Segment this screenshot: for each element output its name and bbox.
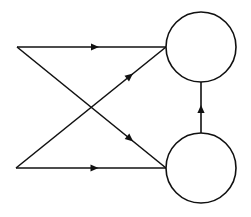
edge-bottom-node-to-top-node [197, 82, 204, 133]
arrowhead-icon [91, 164, 99, 171]
arrowhead-icon [91, 43, 99, 50]
edge-bottom-to-bottom [16, 164, 166, 171]
arrowhead-icon [197, 105, 204, 113]
diagram-canvas [0, 0, 251, 217]
node-top [166, 12, 236, 82]
node-bottom [166, 133, 236, 203]
edge-top-to-top [17, 43, 166, 50]
